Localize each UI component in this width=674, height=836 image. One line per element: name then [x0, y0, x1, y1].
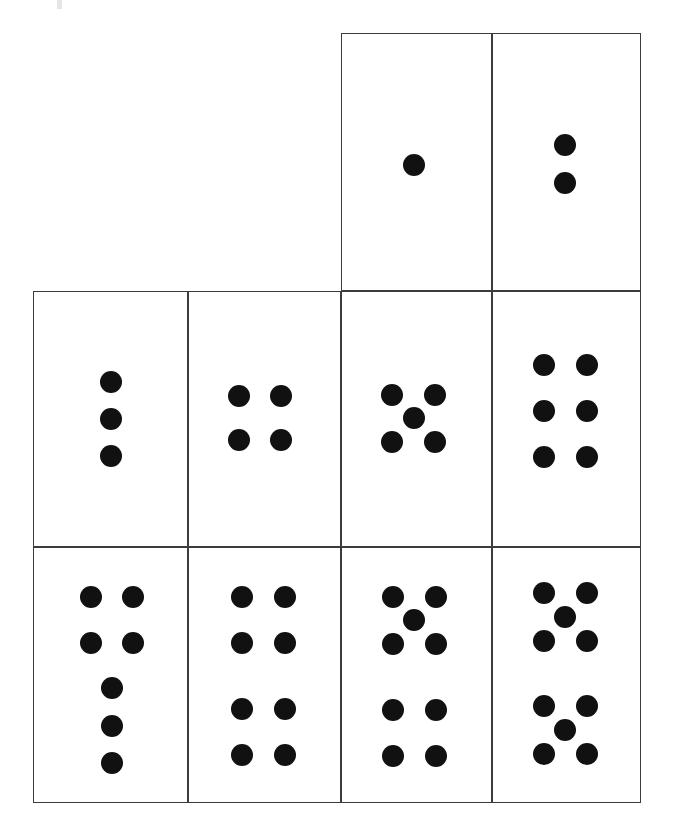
- dot: [576, 630, 598, 652]
- scan-speck: [57, 0, 62, 9]
- dot: [403, 154, 425, 176]
- dot: [425, 745, 447, 767]
- dot: [381, 431, 403, 453]
- dot: [533, 743, 555, 765]
- dot: [228, 429, 250, 451]
- dot: [274, 744, 296, 766]
- dot-card-7[interactable]: [33, 547, 188, 803]
- dot: [382, 699, 404, 721]
- dot: [231, 698, 253, 720]
- dot: [576, 582, 598, 604]
- dot: [425, 633, 447, 655]
- dot-card-8[interactable]: [188, 547, 341, 803]
- dot-card-10[interactable]: [492, 547, 641, 803]
- dot: [533, 695, 555, 717]
- dot: [382, 586, 404, 608]
- dot: [576, 400, 598, 422]
- dot-card-5[interactable]: [341, 291, 492, 547]
- dot: [100, 371, 122, 393]
- dot: [403, 407, 425, 429]
- dot: [80, 586, 102, 608]
- dot: [100, 408, 122, 430]
- dot: [274, 632, 296, 654]
- dot: [554, 134, 576, 156]
- dot-card-3[interactable]: [33, 291, 188, 547]
- dot-card-1[interactable]: [341, 33, 492, 291]
- dot: [554, 606, 576, 628]
- dot: [228, 385, 250, 407]
- dot: [270, 429, 292, 451]
- dot: [533, 400, 555, 422]
- dot: [425, 699, 447, 721]
- dot: [554, 172, 576, 194]
- dot: [270, 385, 292, 407]
- dot: [231, 632, 253, 654]
- dot: [231, 744, 253, 766]
- dot: [424, 431, 446, 453]
- dot-card-2[interactable]: [492, 33, 641, 291]
- dot-card-6[interactable]: [492, 291, 641, 547]
- dot: [425, 586, 447, 608]
- dot: [533, 446, 555, 468]
- dot: [274, 698, 296, 720]
- dot: [533, 354, 555, 376]
- dot: [576, 446, 598, 468]
- dot: [576, 743, 598, 765]
- dot: [403, 609, 425, 631]
- dot: [554, 719, 576, 741]
- dot-card-4[interactable]: [188, 291, 341, 547]
- dot: [533, 582, 555, 604]
- dot: [533, 630, 555, 652]
- dot: [101, 677, 123, 699]
- dot: [424, 384, 446, 406]
- dot: [122, 586, 144, 608]
- dot: [576, 695, 598, 717]
- dot: [100, 445, 122, 467]
- dot: [576, 354, 598, 376]
- dot: [382, 745, 404, 767]
- dot: [80, 632, 102, 654]
- dot: [101, 715, 123, 737]
- dot: [381, 384, 403, 406]
- dot-pattern-grid: [0, 0, 674, 836]
- dot: [122, 632, 144, 654]
- dot: [382, 633, 404, 655]
- dot: [101, 752, 123, 774]
- dot: [231, 586, 253, 608]
- dot-card-9[interactable]: [341, 547, 492, 803]
- dot: [274, 586, 296, 608]
